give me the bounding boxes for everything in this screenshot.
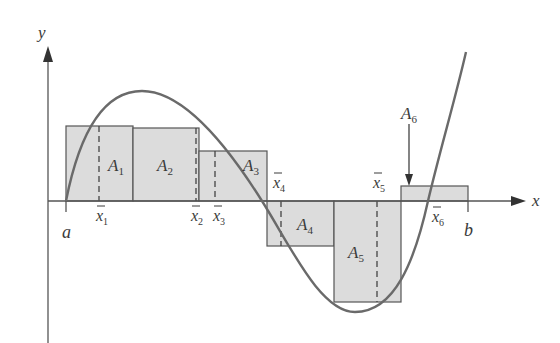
axes	[48, 58, 516, 343]
x-axis-label: x	[531, 191, 540, 210]
y-axis-label: y	[36, 23, 46, 42]
xbar-label-4: x4	[272, 174, 285, 194]
xbar-label-6: x6	[431, 208, 444, 228]
xbar-label-2: x2	[190, 207, 203, 227]
xbar-label-1: x1	[95, 207, 108, 227]
xbar-label-3: x3	[212, 207, 225, 227]
rect-a5	[334, 201, 401, 302]
x-axis-arrow-icon	[511, 196, 526, 206]
interval-start-label: a	[62, 222, 71, 242]
rect-a6	[401, 186, 468, 201]
a6-callout-arrow-icon	[405, 174, 413, 186]
riemann-diagram: y x a b A1 A2 A3 A4 A5 A6 x1 x2 x3 x4 x5…	[0, 0, 560, 343]
interval-end-label: b	[464, 220, 473, 240]
area-label-6: A6	[400, 104, 417, 125]
xbar-label-5: x5	[372, 174, 385, 194]
y-axis-arrow-icon	[43, 46, 53, 62]
rectangles	[66, 126, 468, 302]
